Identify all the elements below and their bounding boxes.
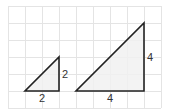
small-triangle-base-label: 2 (39, 92, 45, 104)
large-triangle-base-label: 4 (107, 92, 113, 104)
large-triangle-height-label: 4 (147, 51, 153, 63)
similar-triangles-diagram: 2 2 4 4 (0, 0, 169, 109)
small-triangle-height-label: 2 (62, 68, 68, 80)
